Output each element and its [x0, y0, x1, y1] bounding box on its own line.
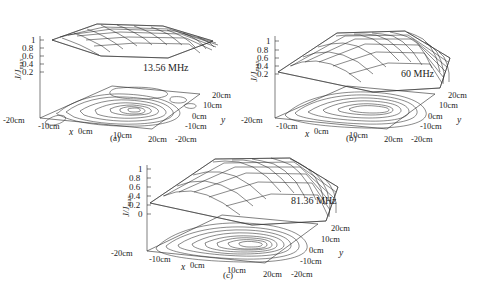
panel-b-z-axis [275, 36, 279, 118]
panel-a-y-tick-10: 10cm [203, 101, 222, 110]
panel-b: J/Jmax 1 0.8 0.6 0.4 0.2 60 MHz -20cm -1… [245, 0, 490, 145]
panel-b-x-tick-20: 20cm [384, 135, 403, 144]
panel-a-z-tick-02: 0.2 [22, 68, 33, 77]
panel-a-y-tick--20: -20cm [175, 135, 197, 144]
panel-c-z-axis [147, 165, 151, 251]
panel-c-x-tick-0: 0cm [190, 261, 205, 270]
panel-c-y-axis-name: y [339, 249, 343, 259]
panel-c-y-tick-0: 0cm [309, 246, 324, 255]
panel-a-x-tick-0: 0cm [78, 127, 93, 136]
panel-b-frequency-label: 60 MHz [401, 69, 434, 79]
panel-b-x-axis-name: x [305, 130, 309, 140]
panel-b-y-tick-20: 20cm [448, 91, 467, 100]
panel-c-y-tick--20: -20cm [291, 270, 313, 279]
panel-c-x-tick--20: -20cm [111, 249, 133, 258]
panel-c-y-tick-20: 20cm [331, 224, 350, 233]
panel-a-x-tick--10: -10cm [38, 122, 60, 131]
panel-c-z-tick-0: 0 [138, 210, 143, 219]
panel-c-y-tick-10: 10cm [321, 235, 340, 244]
panel-a-x-tick-20: 20cm [148, 135, 167, 144]
panel-b-x-tick-0: 0cm [314, 127, 329, 136]
panel-b-y-tick-0: 0cm [428, 112, 443, 121]
panel-a-y-axis-name: y [221, 116, 225, 126]
panel-c-surface-mesh [150, 158, 338, 225]
panel-b-z-tick-02: 0.2 [257, 70, 268, 79]
panel-c-x-axis-name: x [181, 263, 185, 273]
panel-b-x-tick--20: -20cm [241, 116, 263, 125]
panel-b-contour-base [275, 86, 435, 129]
panel-b-surface-mesh [278, 31, 450, 92]
panel-a-caption: (a) [110, 134, 120, 143]
panel-b-caption: (b) [346, 134, 357, 143]
panel-a-surface-mesh [52, 24, 218, 58]
panel-c-x-tick-20: 20cm [263, 270, 282, 279]
panel-b-y-tick--10: -10cm [420, 122, 442, 131]
panel-a-y-tick-0: 0cm [192, 112, 207, 121]
panel-b-x-tick--10: -10cm [276, 122, 298, 131]
panel-a-plot [0, 0, 245, 145]
panel-a-contour-base [40, 86, 200, 129]
panel-a-x-tick--20: -20cm [3, 116, 25, 125]
panel-c-caption: (c) [223, 271, 233, 280]
panel-c: J/Jmax 1 0.8 0.6 0.4 0.2 0 81.36 MHz -20… [110, 145, 380, 289]
panel-a-frequency-label: 13.56 MHz [143, 63, 189, 73]
panel-c-frequency-label: 81.36 MHz [291, 196, 337, 206]
panel-c-x-tick--10: -10cm [149, 255, 171, 264]
panel-a: J/Jmax 1 0.8 0.6 0.4 0.2 13.56 MHz -20cm… [0, 0, 245, 145]
panel-a-y-tick--10: -10cm [185, 122, 207, 131]
panel-a-x-axis-name: x [69, 128, 73, 138]
panel-a-y-tick-20: 20cm [212, 91, 231, 100]
panel-b-y-tick-10: 10cm [439, 101, 458, 110]
figure-three-panel-surface-plots: J/Jmax 1 0.8 0.6 0.4 0.2 13.56 MHz -20cm… [0, 0, 490, 289]
panel-a-z-axis [40, 36, 44, 118]
panel-c-y-tick--10: -10cm [300, 257, 322, 266]
panel-b-y-axis-name: y [457, 116, 461, 126]
panel-b-y-tick--20: -20cm [411, 135, 433, 144]
